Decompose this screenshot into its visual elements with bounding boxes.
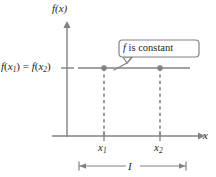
callout-label: f is constant	[123, 43, 173, 54]
point-x2-dot	[157, 65, 163, 71]
point-x1-dot	[101, 65, 107, 71]
x2-tick-label: x2	[154, 142, 163, 155]
callout-leader-tail	[123, 57, 132, 63]
callout-rest: is constant	[126, 42, 173, 53]
x-axis-label: x	[203, 130, 208, 141]
figure-canvas	[0, 0, 216, 177]
interval-label: I	[128, 161, 132, 172]
y-axis-arrowhead	[63, 21, 70, 28]
y-axis-label: f(x)	[52, 3, 67, 14]
x2-label-sub: 2	[159, 146, 163, 155]
value-label-close: )	[47, 60, 51, 72]
interval-right-arrowhead	[179, 163, 186, 169]
value-label-mid: ) =	[16, 60, 31, 72]
constant-function-figure: f(x) f(x1) = f(x2) f is constant x1 x2 I…	[0, 0, 216, 177]
y-axis-label-text: f(x)	[52, 2, 67, 14]
x1-tick-label: x1	[98, 142, 107, 155]
interval-left-arrowhead	[80, 163, 87, 169]
function-value-label: f(x1) = f(x2)	[1, 61, 51, 74]
x1-label-sub: 1	[103, 146, 107, 155]
